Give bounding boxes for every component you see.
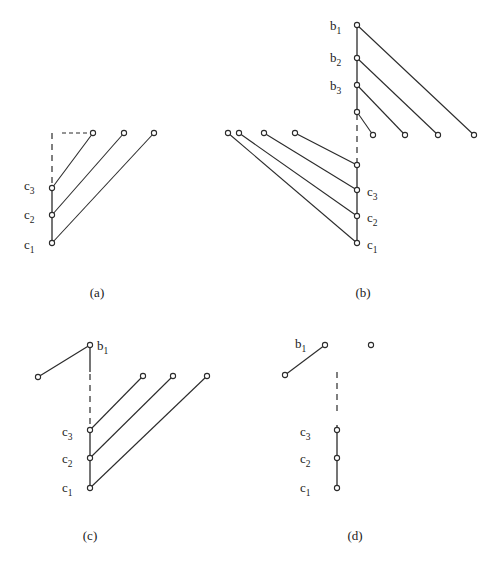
caption-panel-d: (d): [347, 528, 362, 543]
node-c1: [334, 485, 339, 490]
node-c3: [49, 185, 54, 190]
node-c2: [334, 455, 339, 460]
caption-panel-b: (b): [355, 285, 370, 300]
node-c1: [354, 240, 359, 245]
node-b1: [354, 22, 359, 27]
node-free-left: [35, 374, 40, 379]
node-free-right-1: [471, 132, 476, 137]
label-c1: c1: [300, 480, 311, 498]
label-b3: b3: [330, 78, 342, 96]
node-c2: [87, 455, 92, 460]
node-free-right-2: [435, 132, 440, 137]
label-c3: c3: [300, 424, 311, 442]
label-c2: c2: [24, 207, 35, 225]
caption-panel-c: (c): [83, 528, 97, 543]
panel-b-edges-down-right: [357, 25, 474, 135]
node-free-right-1: [140, 373, 145, 378]
panel-a-edges: [52, 133, 154, 243]
node-spine-upper: [354, 162, 359, 167]
panel-a: c3 c2 c1 (a): [24, 130, 157, 300]
edge-b3-down: [357, 85, 405, 135]
panel-c-nodes: [35, 342, 209, 490]
node-c2: [49, 212, 54, 217]
figure-container: c3 c2 c1 (a): [0, 0, 504, 582]
node-free-right-2: [170, 373, 175, 378]
label-c3: c3: [62, 424, 73, 442]
edge-b2-down: [357, 58, 438, 135]
label-c1: c1: [62, 480, 73, 498]
node-c1: [49, 240, 54, 245]
edge-b1-down: [357, 25, 474, 135]
node-free-right-4: [370, 132, 375, 137]
node-c3: [87, 427, 92, 432]
node-c3: [334, 427, 339, 432]
edge-c1-left: [228, 133, 357, 243]
node-c2: [354, 213, 359, 218]
panel-d-nodes: [282, 342, 373, 490]
node-free-1: [90, 130, 95, 135]
label-c2: c2: [300, 451, 311, 469]
edge-b4-down: [357, 112, 373, 135]
node-free-left-4: [225, 130, 230, 135]
figure-svg: c3 c2 c1 (a): [0, 0, 504, 582]
caption-panel-a: (a): [90, 285, 104, 300]
label-c1: c1: [24, 237, 35, 255]
edge-c1-to-node: [52, 133, 154, 243]
panel-c-edges: [38, 345, 207, 488]
node-free-right-3: [204, 373, 209, 378]
label-c3: c3: [367, 184, 378, 202]
node-b1: [322, 342, 327, 347]
label-c2: c2: [367, 210, 378, 228]
label-c2: c2: [62, 451, 73, 469]
panel-d-labels: b1 c3 c2 c1: [295, 336, 311, 498]
label-c1: c1: [367, 237, 378, 255]
label-b1: b1: [295, 336, 307, 354]
node-free-left-1: [292, 130, 297, 135]
edge-upper-spine-left: [295, 133, 357, 165]
node-b3: [354, 82, 359, 87]
panel-b: b1 b2 b3 c3 c2 c1 (b): [225, 18, 476, 300]
label-b1: b1: [97, 338, 109, 356]
node-free-left-2: [261, 130, 266, 135]
panel-b-edges-up-left: [228, 133, 357, 243]
node-free-isolated: [368, 342, 373, 347]
node-b2: [354, 55, 359, 60]
panel-d: b1 c3 c2 c1 (d): [282, 336, 373, 543]
panel-c: b1 c3 c2 c1 (c): [35, 338, 209, 543]
node-b1: [87, 342, 92, 347]
edge-b1-left: [38, 345, 90, 377]
edge-c2-left: [239, 133, 357, 216]
node-free-right-3: [402, 132, 407, 137]
node-c1: [87, 485, 92, 490]
node-free-left-3: [236, 130, 241, 135]
node-c3: [354, 187, 359, 192]
label-c3: c3: [24, 178, 35, 196]
edge-c3-right: [90, 376, 143, 430]
label-b1: b1: [330, 18, 342, 36]
edge-c1-right: [90, 376, 207, 488]
node-b4: [354, 109, 359, 114]
node-free-3: [151, 130, 156, 135]
node-free-left: [282, 372, 287, 377]
panel-a-labels: c3 c2 c1: [24, 178, 35, 255]
label-b2: b2: [330, 50, 342, 68]
edge-c3-to-node: [52, 133, 93, 188]
node-free-2: [121, 130, 126, 135]
